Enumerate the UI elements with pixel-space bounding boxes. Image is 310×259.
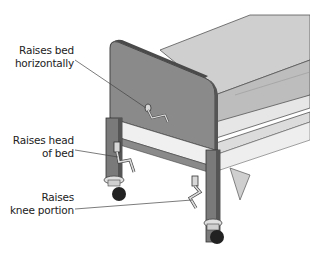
frame-bracket bbox=[230, 168, 250, 200]
leader-line-knee bbox=[75, 200, 192, 209]
label-line: of bed bbox=[8, 147, 74, 160]
crank-knee bbox=[190, 176, 200, 208]
bed-illustration bbox=[0, 0, 310, 259]
label-line: Raises bed bbox=[8, 44, 74, 57]
label-raises-bed-horizontally: Raises bed horizontally bbox=[8, 44, 74, 70]
right-wheel bbox=[210, 230, 224, 244]
left-wheel bbox=[112, 187, 126, 201]
label-raises-knee-portion: Raises knee portion bbox=[8, 191, 74, 217]
label-raises-head-of-bed: Raises head of bed bbox=[8, 134, 74, 160]
hospital-bed-diagram: Raises bed horizontally Raises head of b… bbox=[0, 0, 310, 259]
label-line: knee portion bbox=[8, 204, 74, 217]
label-line: Raises bbox=[8, 191, 74, 204]
label-line: Raises head bbox=[8, 134, 74, 147]
label-line: horizontally bbox=[8, 57, 74, 70]
